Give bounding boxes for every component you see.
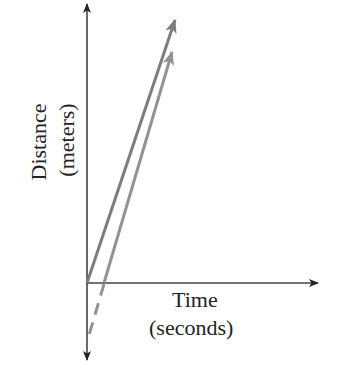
y-axis-title: Distance — [28, 104, 50, 181]
x-axis-units: (seconds) — [149, 317, 233, 339]
y-axis-units: (meters) — [56, 103, 78, 176]
line-2 — [104, 52, 172, 283]
x-axis-title: Time — [172, 289, 218, 311]
line-1 — [87, 20, 175, 283]
line-2-dashed-extension — [87, 284, 104, 342]
